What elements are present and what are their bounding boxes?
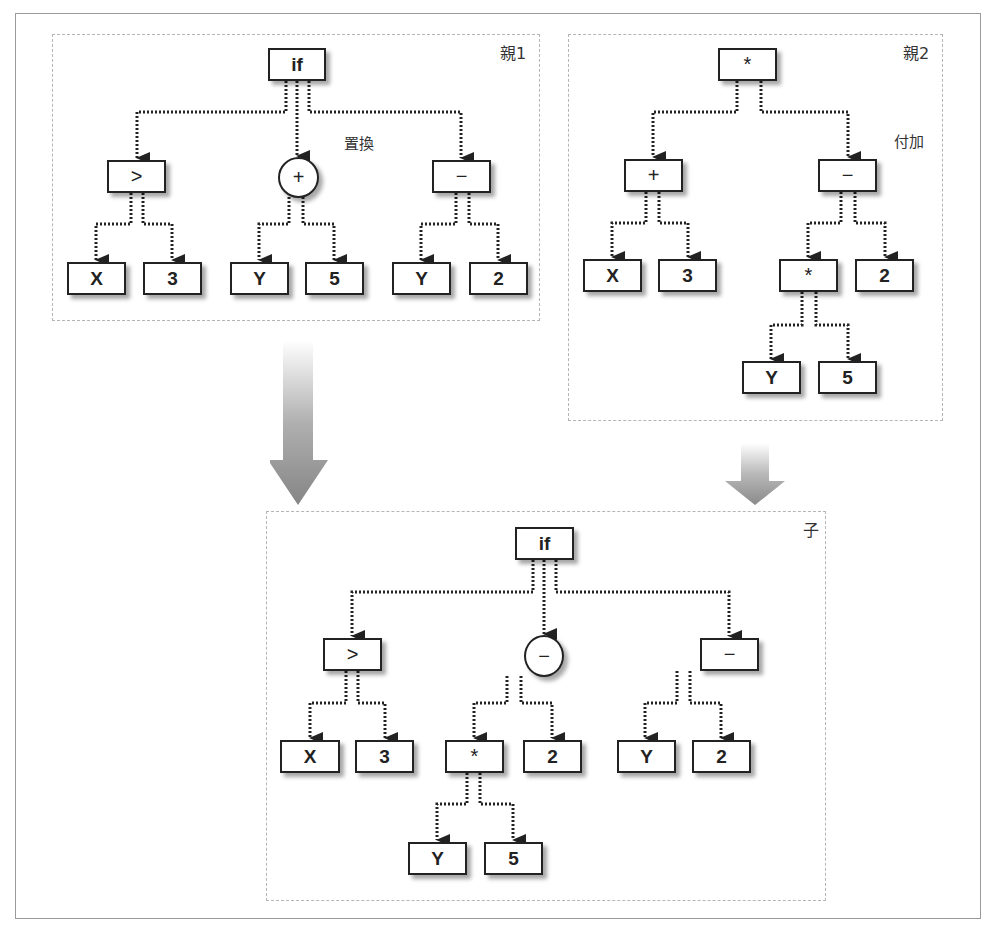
tree-node-greater-than: > (107, 160, 166, 193)
tree-node-y: Y (408, 842, 467, 875)
tree-node-minus: − (818, 159, 877, 192)
tree-node-3: 3 (143, 262, 202, 295)
tree-node-3: 3 (355, 740, 414, 773)
tree-node-minus: − (700, 638, 759, 671)
tree-node-y: Y (230, 262, 289, 295)
tree-node-x: X (67, 262, 126, 295)
tree-node-x: X (583, 259, 642, 292)
tree-node-greater-than: > (323, 638, 382, 671)
tree-node-x: X (280, 740, 340, 773)
tree-node-2: 2 (692, 740, 751, 773)
tree-node-minus-inserted: − (524, 635, 564, 677)
tree-node-y: Y (742, 361, 801, 394)
tree-node-if: if (515, 527, 574, 560)
tree-node-minus: − (432, 160, 491, 193)
tree-node-2: 2 (469, 262, 528, 295)
tree-node-2: 2 (523, 740, 582, 773)
tree-node-if: if (268, 48, 326, 81)
tree-node-multiply: * (445, 740, 504, 773)
tree-node-y: Y (617, 740, 676, 773)
tree-node-plus-replaced: + (278, 157, 319, 198)
tree-node-plus: + (624, 159, 683, 192)
tree-node-3: 3 (658, 259, 717, 292)
tree-node-5: 5 (818, 361, 877, 394)
tree-node-y: Y (392, 262, 451, 295)
tree-edges (0, 0, 993, 928)
tree-node-5: 5 (484, 842, 543, 875)
tree-node-multiply: * (779, 259, 838, 292)
tree-node-2: 2 (855, 259, 914, 292)
tree-node-5: 5 (305, 262, 364, 295)
tree-node-multiply: * (718, 48, 777, 81)
